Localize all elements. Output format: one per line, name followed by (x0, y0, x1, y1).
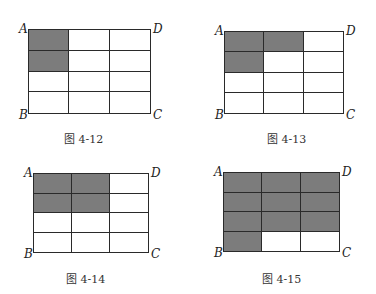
shaded-cell (262, 193, 300, 213)
grid-cell (225, 73, 264, 93)
corner-label-a: A (24, 167, 33, 179)
grid-cell (110, 30, 150, 51)
grid-cell (110, 72, 150, 93)
shaded-cell (301, 193, 339, 213)
shaded-cell (301, 173, 339, 193)
corner-label-c: C (346, 109, 355, 121)
grid-cell (34, 213, 72, 233)
corner-label-a: A (19, 23, 28, 35)
shaded-cell (224, 173, 262, 193)
corner-label-d: D (151, 167, 161, 179)
grid-cell (69, 30, 109, 51)
grid-cell (264, 73, 303, 93)
figure-caption: 图 4-15 (262, 270, 301, 286)
corner-label-c: C (151, 248, 160, 260)
shaded-cell (262, 212, 300, 232)
shaded-cell (29, 30, 69, 51)
shaded-cell (264, 32, 303, 52)
shaded-cell (34, 174, 72, 194)
corner-label-b: B (19, 109, 28, 121)
grid-cell (69, 92, 109, 113)
grid-cell (225, 93, 264, 113)
rectangle-grid (33, 173, 149, 253)
corner-label-b: B (214, 247, 223, 259)
corner-label-b: B (24, 248, 33, 260)
corner-label-c: C (342, 247, 351, 259)
shaded-cell (224, 212, 262, 232)
figure-caption: 图 4-12 (64, 130, 103, 146)
grid-cell (304, 93, 343, 113)
grid-cell (110, 194, 148, 214)
shaded-cell (224, 232, 262, 252)
rectangle-grid (223, 172, 340, 252)
grid-cell (110, 92, 150, 113)
grid-cell (69, 51, 109, 72)
figure-caption: 图 4-13 (267, 130, 306, 146)
grid-cell (264, 52, 303, 72)
shaded-cell (225, 32, 264, 52)
grid-cell (264, 93, 303, 113)
grid-cell (110, 233, 148, 253)
shaded-cell (29, 51, 69, 72)
corner-label-d: D (153, 23, 163, 35)
grid-cell (110, 213, 148, 233)
shaded-cell (224, 193, 262, 213)
grid-cell (110, 174, 148, 194)
grid-cell (72, 233, 110, 253)
corner-label-b: B (215, 109, 224, 121)
rectangle-grid (28, 29, 151, 114)
grid-cell (72, 213, 110, 233)
corner-label-d: D (346, 25, 356, 37)
rectangle-grid (224, 31, 344, 114)
shaded-cell (262, 173, 300, 193)
corner-label-a: A (214, 166, 223, 178)
grid-cell (304, 73, 343, 93)
grid-cell (34, 233, 72, 253)
figure-caption: 图 4-14 (66, 270, 105, 286)
grid-cell (69, 72, 109, 93)
grid-cell (29, 92, 69, 113)
corner-label-c: C (153, 109, 162, 121)
shaded-cell (225, 52, 264, 72)
shaded-cell (34, 194, 72, 214)
grid-cell (262, 232, 300, 252)
grid-cell (110, 51, 150, 72)
grid-cell (301, 232, 339, 252)
grid-cell (29, 72, 69, 93)
shaded-cell (301, 212, 339, 232)
grid-cell (304, 32, 343, 52)
corner-label-d: D (342, 166, 352, 178)
corner-label-a: A (215, 25, 224, 37)
grid-cell (304, 52, 343, 72)
shaded-cell (72, 194, 110, 214)
shaded-cell (72, 174, 110, 194)
